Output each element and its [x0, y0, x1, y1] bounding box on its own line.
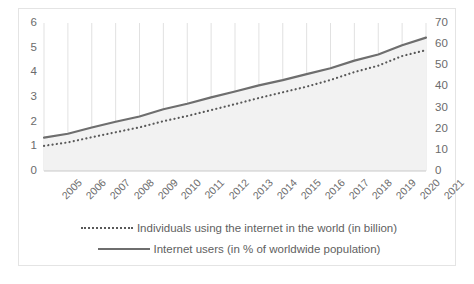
- left-axis-tick: 1: [19, 140, 37, 152]
- right-axis-tick: 30: [435, 102, 448, 114]
- left-axis-tick: 5: [19, 42, 37, 54]
- right-axis-tick: 20: [435, 123, 448, 135]
- solid-line-key: [96, 243, 152, 255]
- left-axis-tick: 3: [19, 91, 37, 103]
- right-axis-tick: 40: [435, 80, 448, 92]
- right-axis-tick: 10: [435, 144, 448, 156]
- dotted-line-key: [79, 222, 135, 234]
- chart-legend: Individuals using the internet in the wo…: [19, 217, 457, 259]
- legend-item: Internet users (in % of worldwide popula…: [19, 238, 457, 259]
- right-axis-tick: 0: [435, 165, 441, 177]
- legend-item: Individuals using the internet in the wo…: [19, 217, 457, 238]
- legend-item-label: Individuals using the internet in the wo…: [135, 222, 397, 234]
- left-axis-tick: 4: [19, 66, 37, 78]
- right-axis-tick: 70: [435, 17, 448, 29]
- right-axis-tick: 50: [435, 59, 448, 71]
- left-axis-tick: 6: [19, 17, 37, 29]
- left-axis-tick: 2: [19, 116, 37, 128]
- left-axis-tick: 0: [19, 165, 37, 177]
- chart-container: 0123456 010203040506070 2005200620072008…: [18, 8, 456, 266]
- legend-item-label: Internet users (in % of worldwide popula…: [152, 243, 381, 255]
- right-axis-tick: 60: [435, 38, 448, 50]
